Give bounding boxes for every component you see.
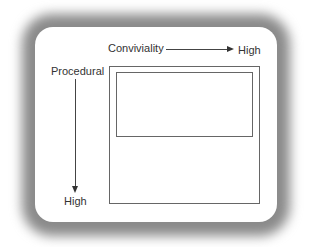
arrow-down-icon	[72, 186, 78, 193]
conviviality-arrow-line	[166, 49, 227, 50]
procedural-arrow-line	[75, 79, 76, 186]
conviviality-high-label: High	[238, 44, 261, 56]
arrow-right-icon	[227, 46, 234, 52]
conviviality-axis-label: Conviviality	[108, 42, 164, 54]
procedural-high-label: High	[64, 195, 87, 207]
inner-region-rect	[116, 72, 253, 137]
procedural-axis-label: Procedural	[51, 65, 104, 77]
